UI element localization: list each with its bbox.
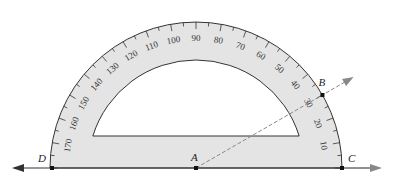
- point-a: [194, 166, 198, 170]
- arrow-ray-icon: [342, 77, 354, 86]
- arrow-right-icon: [370, 164, 382, 172]
- label-a: A: [190, 151, 198, 163]
- scale-label: 90: [192, 33, 202, 43]
- label-c: C: [348, 152, 356, 164]
- protractor-body: [50, 22, 342, 168]
- label-d: D: [37, 152, 46, 164]
- point-c: [340, 166, 344, 170]
- arrow-left-icon: [12, 164, 24, 172]
- label-b: B: [318, 76, 325, 88]
- point-b: [320, 93, 324, 97]
- point-d: [50, 166, 54, 170]
- protractor-diagram: 1020304050607080901001101201301401501601…: [0, 0, 395, 185]
